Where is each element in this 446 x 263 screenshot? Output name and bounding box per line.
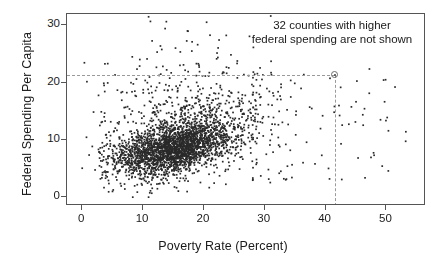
x-tick-label: 40 [305, 212, 345, 224]
highlight-vertical-guide [335, 75, 336, 205]
x-tick-label: 10 [122, 212, 162, 224]
highlight-horizontal-guide [67, 75, 335, 76]
y-tick-mark [61, 82, 66, 83]
y-axis-title: Federal Spending Per Capita [20, 18, 34, 210]
x-tick-label: 20 [183, 212, 223, 224]
annotation-line-2: federal spending are not shown [246, 33, 418, 47]
y-tick-mark [61, 196, 66, 197]
x-tick-mark [264, 205, 265, 210]
x-tick-mark [203, 205, 204, 210]
truncation-annotation: 32 counties with higher federal spending… [246, 19, 418, 46]
x-axis-title: Poverty Rate (Percent) [0, 239, 446, 253]
x-tick-mark [385, 205, 386, 210]
y-tick-mark [61, 139, 66, 140]
x-tick-label: 0 [61, 212, 101, 224]
scatter-plot-figure: 01020304050 0102030 Poverty Rate (Percen… [0, 0, 446, 263]
x-tick-label: 50 [365, 212, 405, 224]
x-tick-mark [325, 205, 326, 210]
annotation-line-1: 32 counties with higher [246, 19, 418, 33]
y-tick-mark [61, 24, 66, 25]
x-tick-mark [142, 205, 143, 210]
x-tick-mark [81, 205, 82, 210]
x-tick-label: 30 [244, 212, 284, 224]
